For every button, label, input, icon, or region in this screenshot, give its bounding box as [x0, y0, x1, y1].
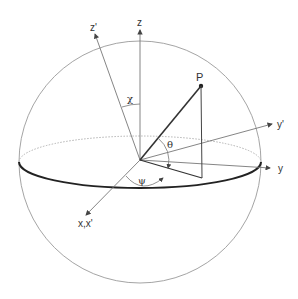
label-p: P: [196, 71, 203, 83]
chi-arc: [122, 104, 140, 107]
label-y-prime: y': [277, 119, 284, 130]
projection-base: [140, 160, 202, 178]
z-prime-axis: [95, 34, 140, 160]
label-x: x,x': [78, 218, 93, 229]
label-psi: ψ: [138, 175, 146, 186]
label-y: y: [278, 163, 283, 174]
y-axis: [140, 160, 270, 168]
euler-angle-sphere-diagram: z z' P y' y x,x' χ θ ψ: [0, 0, 298, 299]
label-z-prime: z': [90, 22, 97, 33]
label-theta: θ: [167, 139, 173, 150]
y-prime-axis: [140, 124, 272, 160]
label-chi: χ: [127, 93, 133, 104]
label-z: z: [137, 17, 142, 28]
